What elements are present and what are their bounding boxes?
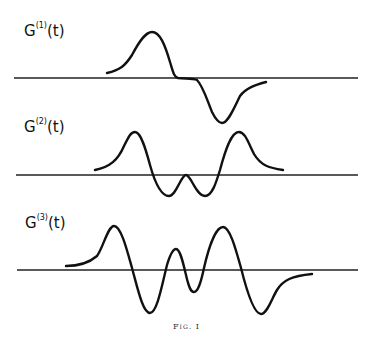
panel-2-curve [95,132,283,196]
figure-canvas [0,0,373,349]
panel-2-label: G(2)(t) [24,118,65,136]
panel-3-label: G(3)(t) [25,214,66,232]
panel-1-label: G(1)(t) [24,22,65,40]
figure-caption: Fig. I [0,322,373,331]
